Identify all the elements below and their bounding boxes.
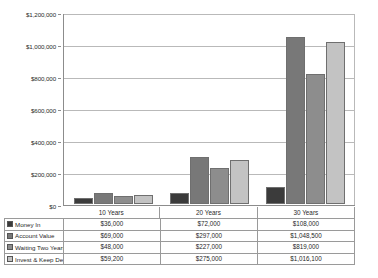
series-name: Account Value [15, 232, 54, 239]
y-tick-label: $400,000 [31, 139, 56, 146]
table-cell-value: $48,000 [64, 242, 161, 253]
table-cell-value: $227,000 [161, 242, 258, 253]
bar [326, 42, 345, 204]
chart-sheet: $1,200,000$1,000,000$800,000$600,000$400… [0, 0, 378, 278]
x-axis-categories: 10 Years20 Years30 Years [63, 207, 355, 218]
y-tick-label: $0 [49, 203, 56, 210]
table-cell-value: $36,000 [64, 219, 161, 230]
table-cell-value: $108,000 [258, 219, 355, 230]
table-cell-value: $275,000 [161, 254, 258, 265]
x-category-label: 30 Years [258, 207, 355, 218]
y-tick-mark [58, 174, 61, 175]
bar [170, 193, 189, 204]
series-name: Invest & Keep Debt [15, 256, 64, 263]
table-cell-value: $1,016,100 [258, 254, 355, 265]
bar [134, 195, 153, 204]
y-tick-mark [58, 46, 61, 47]
table-row: Account Value$69,000$297,000$1,048,500 [5, 231, 355, 243]
bar [266, 187, 285, 204]
y-tick-mark [58, 206, 61, 207]
legend-swatch-icon [7, 233, 13, 239]
legend-swatch-icon [7, 244, 13, 250]
bar-group [161, 14, 257, 204]
series-name: Waiting Two Years [15, 244, 64, 251]
y-tick-label: $800,000 [31, 75, 56, 82]
plot-frame [63, 14, 355, 206]
y-tick-mark [58, 110, 61, 111]
bar [210, 168, 229, 204]
table-cell-value: $297,000 [161, 231, 258, 242]
y-tick-label: $600,000 [31, 107, 56, 114]
table-cell-value: $819,000 [258, 242, 355, 253]
y-tick-mark [58, 78, 61, 79]
y-tick-label: $200,000 [31, 171, 56, 178]
bar [306, 74, 325, 204]
table-row: Invest & Keep Debt$59,200$275,000$1,016,… [5, 254, 355, 266]
bar [114, 196, 133, 204]
bar [230, 160, 249, 204]
bar-group [258, 14, 354, 204]
bar [286, 37, 305, 204]
series-name: Money In [15, 221, 40, 228]
table-cell-value: $59,200 [64, 254, 161, 265]
y-tick-mark [58, 142, 61, 143]
legend-swatch-icon [7, 256, 13, 262]
table-cell-value: $1,048,500 [258, 231, 355, 242]
legend-entry: Waiting Two Years [5, 242, 64, 253]
chart-plot-area [63, 14, 355, 206]
legend-swatch-icon [7, 221, 13, 227]
table-row: Waiting Two Years$48,000$227,000$819,000 [5, 242, 355, 254]
table-cell-value: $72,000 [161, 219, 258, 230]
bar-groups [65, 14, 354, 204]
legend-entry: Money In [5, 219, 64, 230]
y-tick-label: $1,000,000 [26, 43, 56, 50]
legend-entry: Account Value [5, 231, 64, 242]
bar-group [65, 14, 161, 204]
x-category-label: 10 Years [63, 207, 160, 218]
table-cell-value: $69,000 [64, 231, 161, 242]
data-table-legend: Money In$36,000$72,000$108,000Account Va… [4, 218, 355, 265]
bar [74, 198, 93, 204]
legend-entry: Invest & Keep Debt [5, 254, 64, 265]
bar [94, 193, 113, 204]
y-axis-labels: $1,200,000$1,000,000$800,000$600,000$400… [0, 14, 61, 206]
table-row: Money In$36,000$72,000$108,000 [5, 219, 355, 231]
bar [190, 157, 209, 204]
y-tick-label: $1,200,000 [26, 11, 56, 18]
y-tick-mark [58, 14, 61, 15]
x-category-label: 20 Years [160, 207, 257, 218]
